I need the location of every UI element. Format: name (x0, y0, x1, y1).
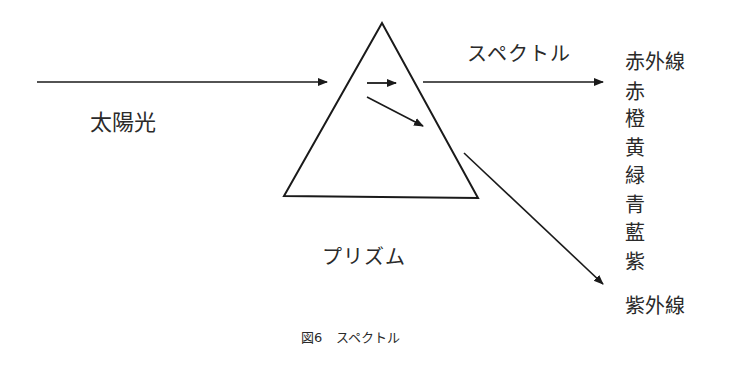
color-green: 緑 (625, 166, 645, 186)
figure-caption: 図6スペクトル (301, 331, 400, 344)
spectrum-label: スペクトル (467, 44, 571, 64)
color-violet: 紫 (625, 252, 645, 272)
spectrum-lower-ray-arrow (464, 153, 603, 284)
figure-number: 図6 (301, 330, 322, 345)
color-indigo: 藍 (625, 223, 645, 243)
sunlight-label: 太陽光 (90, 112, 156, 134)
color-red: 赤 (625, 82, 645, 102)
color-ultraviolet: 紫外線 (625, 296, 685, 316)
inner-ray-bent-arrow (367, 97, 423, 126)
color-blue: 青 (625, 195, 645, 215)
color-orange: 橙 (625, 109, 645, 129)
prism-triangle (284, 23, 478, 198)
color-yellow: 黄 (625, 138, 645, 158)
prism-label: プリズム (322, 247, 406, 267)
color-infrared: 赤外線 (625, 52, 685, 72)
figure-title: スペクトル (336, 330, 400, 345)
